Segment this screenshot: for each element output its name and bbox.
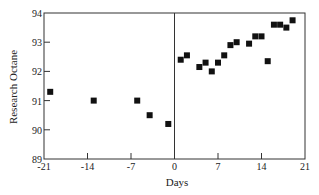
data-point-marker <box>184 52 190 58</box>
data-point-marker <box>234 39 240 45</box>
data-point-marker <box>134 98 140 104</box>
data-point-marker <box>277 22 283 28</box>
data-point-marker <box>209 68 215 74</box>
plot-frame <box>44 13 305 159</box>
x-tick-label: 21 <box>300 161 310 172</box>
data-point-marker <box>227 42 233 48</box>
data-point-marker <box>196 64 202 70</box>
data-point-marker <box>165 121 171 127</box>
x-tick-label: -7 <box>127 161 135 172</box>
y-tick-label: 92 <box>32 66 42 77</box>
y-axis-title: Research Octane <box>7 50 19 124</box>
data-points <box>47 17 295 127</box>
data-point-marker <box>246 41 252 47</box>
data-point-marker <box>178 57 184 63</box>
data-point-marker <box>221 52 227 58</box>
y-tick-label: 90 <box>32 125 42 136</box>
y-tick-label: 89 <box>32 154 42 165</box>
data-point-marker <box>259 33 265 39</box>
scatter-chart: -21-14-7071421899091929394 Days Research… <box>0 0 319 195</box>
data-point-marker <box>47 89 53 95</box>
x-tick-label: 7 <box>216 161 221 172</box>
data-point-marker <box>91 98 97 104</box>
data-point-marker <box>252 33 258 39</box>
y-tick-label: 94 <box>32 8 42 19</box>
x-axis-title: Days <box>166 176 189 188</box>
data-point-marker <box>290 17 296 23</box>
x-tick-label: 0 <box>172 161 177 172</box>
y-tick-label: 93 <box>32 37 42 48</box>
x-tick-label: -14 <box>81 161 94 172</box>
data-point-marker <box>283 25 289 31</box>
x-tick-label: 14 <box>257 161 267 172</box>
data-point-marker <box>203 60 209 66</box>
data-point-marker <box>215 60 221 66</box>
y-tick-label: 91 <box>32 96 42 107</box>
data-point-marker <box>265 58 271 64</box>
axis-ticks: -21-14-7071421899091929394 <box>32 8 310 172</box>
data-point-marker <box>271 22 277 28</box>
data-point-marker <box>147 112 153 118</box>
